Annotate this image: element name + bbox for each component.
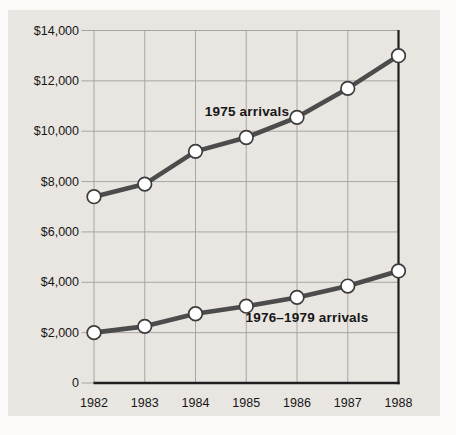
y-tick-label: $6,000 [41, 225, 79, 239]
y-axis-labels: 0$2,000$4,000$6,000$8,000$10,000$12,000$… [34, 24, 79, 391]
data-point-marker [138, 320, 152, 334]
data-point-marker [239, 131, 253, 145]
y-tick-label: $12,000 [34, 74, 79, 88]
data-point-marker [341, 82, 355, 96]
data-point-marker [87, 190, 101, 204]
x-axis-labels: 1982198319841985198619871988 [80, 396, 412, 410]
series-label-1976-1979-arrivals: 1976–1979 arrivals [246, 310, 369, 325]
x-tick-label: 1984 [182, 396, 210, 410]
y-tick-label: $4,000 [41, 275, 79, 289]
y-tick-label: 0 [72, 376, 79, 390]
data-point-marker [290, 111, 304, 125]
series-label-1975-arrivals: 1975 arrivals [205, 104, 289, 119]
data-point-marker [392, 264, 406, 278]
data-point-marker [189, 145, 203, 159]
data-point-marker [392, 49, 406, 63]
x-tick-label: 1986 [283, 396, 311, 410]
data-point-marker [341, 279, 355, 293]
data-point-marker [290, 291, 304, 305]
x-tick-label: 1988 [385, 396, 413, 410]
x-tick-label: 1982 [80, 396, 108, 410]
y-tick-label: $8,000 [41, 175, 79, 189]
data-point-marker [87, 326, 101, 340]
line-chart: 0$2,000$4,000$6,000$8,000$10,000$12,000$… [0, 0, 456, 435]
x-tick-label: 1987 [334, 396, 362, 410]
data-point-marker [189, 307, 203, 321]
data-point-marker [138, 177, 152, 191]
x-tick-label: 1983 [131, 396, 159, 410]
y-tick-label: $2,000 [41, 326, 79, 340]
y-tick-label: $10,000 [34, 124, 79, 138]
page: 0$2,000$4,000$6,000$8,000$10,000$12,000$… [0, 0, 456, 435]
x-tick-label: 1985 [232, 396, 260, 410]
y-tick-label: $14,000 [34, 24, 79, 38]
